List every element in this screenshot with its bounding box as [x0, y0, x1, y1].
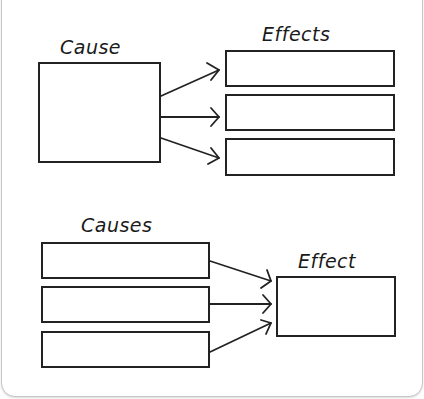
arrow-icon: [161, 63, 219, 96]
arrow-icon: [210, 261, 271, 288]
arrow-icon: [210, 295, 271, 313]
effect-box[interactable]: [276, 276, 396, 337]
effect-box-1[interactable]: [225, 50, 395, 87]
cause-label: Cause: [60, 38, 121, 57]
effects-label: Effects: [262, 25, 330, 44]
arrow-icon: [161, 138, 219, 164]
cause-box-1[interactable]: [41, 242, 210, 279]
effect-box-3[interactable]: [225, 138, 395, 176]
cause-box-3[interactable]: [41, 331, 210, 368]
causes-label: Causes: [81, 216, 152, 235]
effect-label: Effect: [298, 252, 356, 271]
arrow-icon: [161, 108, 219, 126]
cause-box[interactable]: [38, 62, 161, 163]
cause-effect-diagram: Cause Effects Causes Effect: [0, 0, 424, 399]
cause-box-2[interactable]: [41, 286, 210, 323]
arrow-icon: [210, 320, 271, 352]
effect-box-2[interactable]: [225, 94, 395, 131]
